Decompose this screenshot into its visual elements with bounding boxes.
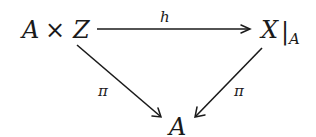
- edge-h: h: [97, 8, 250, 33]
- commutative-diagram: A × Z h X | A π π A: [0, 0, 316, 137]
- edge-pi-left-label: π: [97, 82, 109, 100]
- edge-h-label: h: [160, 8, 170, 26]
- node-a-times-z-a: A: [20, 16, 39, 44]
- diagram-svg: A × Z h X | A π π A: [0, 0, 316, 137]
- node-a-bottom: A: [167, 113, 186, 137]
- edge-pi-right-line: [196, 48, 262, 116]
- edge-pi-right: π: [195, 48, 262, 117]
- node-a-times-z-z: Z: [72, 16, 91, 44]
- node-a-times-z: A × Z: [20, 16, 91, 44]
- edge-pi-left: π: [77, 45, 161, 117]
- node-x-restricted-a: X | A: [259, 16, 300, 48]
- edge-pi-left-line: [77, 45, 160, 116]
- node-x-bar: |: [281, 17, 289, 46]
- edge-pi-right-label: π: [233, 82, 245, 100]
- node-x-subscript: A: [287, 30, 300, 48]
- node-a-times-z-times: ×: [45, 16, 65, 44]
- node-x-main: X: [259, 16, 279, 44]
